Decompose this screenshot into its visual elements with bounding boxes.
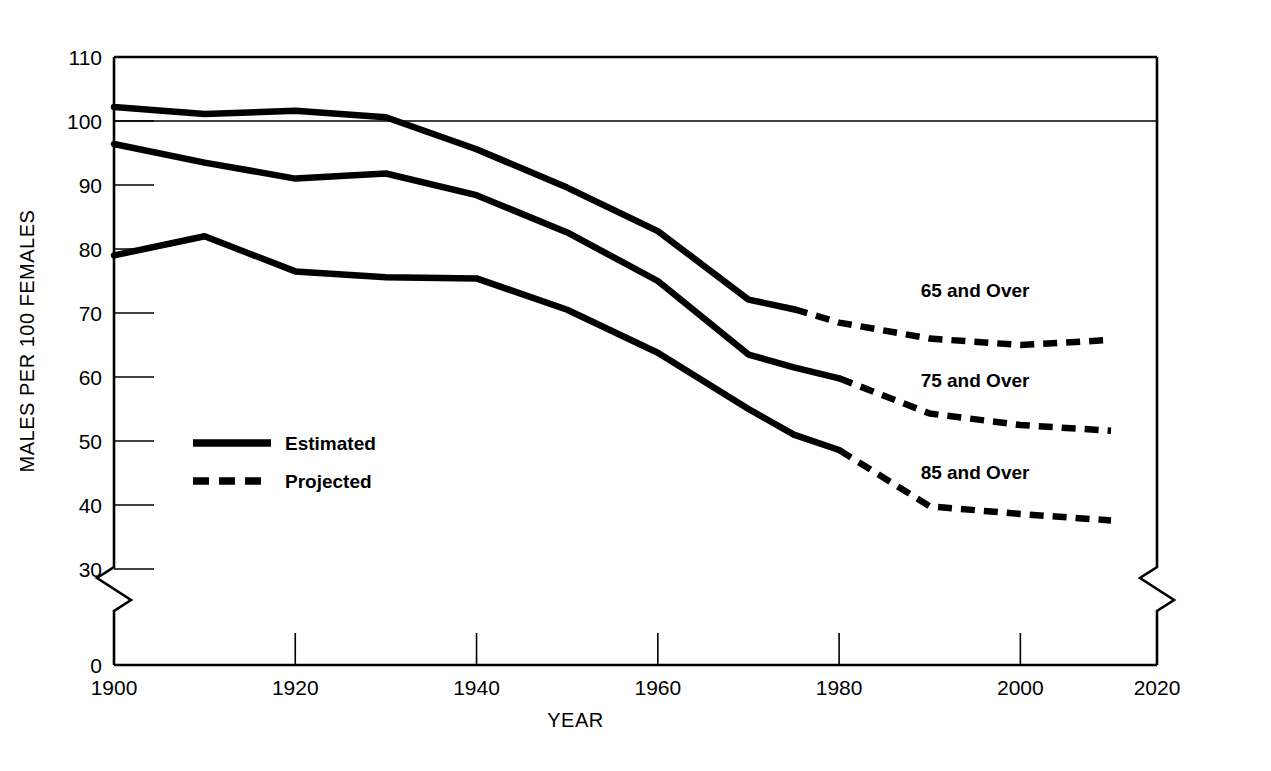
legend-label: Estimated	[285, 433, 376, 454]
legend-label: Projected	[285, 471, 372, 492]
series-line-dashed	[839, 450, 1111, 520]
y-tick-label: 90	[79, 174, 102, 197]
y-axis-title: MALES PER 100 FEMALES	[16, 210, 38, 473]
x-tick-label: 1980	[816, 676, 863, 699]
plot-frame	[97, 57, 1174, 665]
y-tick-label: 100	[67, 110, 102, 133]
y-tick-label: 50	[79, 430, 102, 453]
x-tick-label: 1920	[272, 676, 319, 699]
series-label: 85 and Over	[921, 462, 1030, 483]
series-labels: 65 and Over75 and Over85 and Over	[921, 280, 1030, 483]
y-tick-label: 0	[90, 654, 102, 677]
x-tick-label: 1940	[453, 676, 500, 699]
y-tick-label: 30	[79, 558, 102, 581]
y-tick-label: 60	[79, 366, 102, 389]
x-axis-title: YEAR	[547, 709, 603, 731]
series-label: 65 and Over	[921, 280, 1030, 301]
x-tick-label: 2000	[997, 676, 1044, 699]
series-label: 75 and Over	[921, 370, 1030, 391]
y-tick-label: 80	[79, 238, 102, 261]
line-chart: 0304050607080901001101900192019401960198…	[0, 0, 1271, 771]
x-tick-label: 2020	[1134, 676, 1181, 699]
series-line-solid	[114, 144, 839, 378]
y-tick-label: 40	[79, 494, 102, 517]
series-line-dashed	[794, 309, 1111, 345]
x-tick-label: 1900	[91, 676, 138, 699]
chart-legend: EstimatedProjected	[193, 433, 376, 492]
data-series-group	[114, 107, 1111, 521]
figure-canvas: 0304050607080901001101900192019401960198…	[0, 0, 1271, 771]
y-tick-label: 110	[69, 46, 102, 69]
x-tick-label: 1960	[634, 676, 681, 699]
y-tick-label: 70	[79, 302, 102, 325]
